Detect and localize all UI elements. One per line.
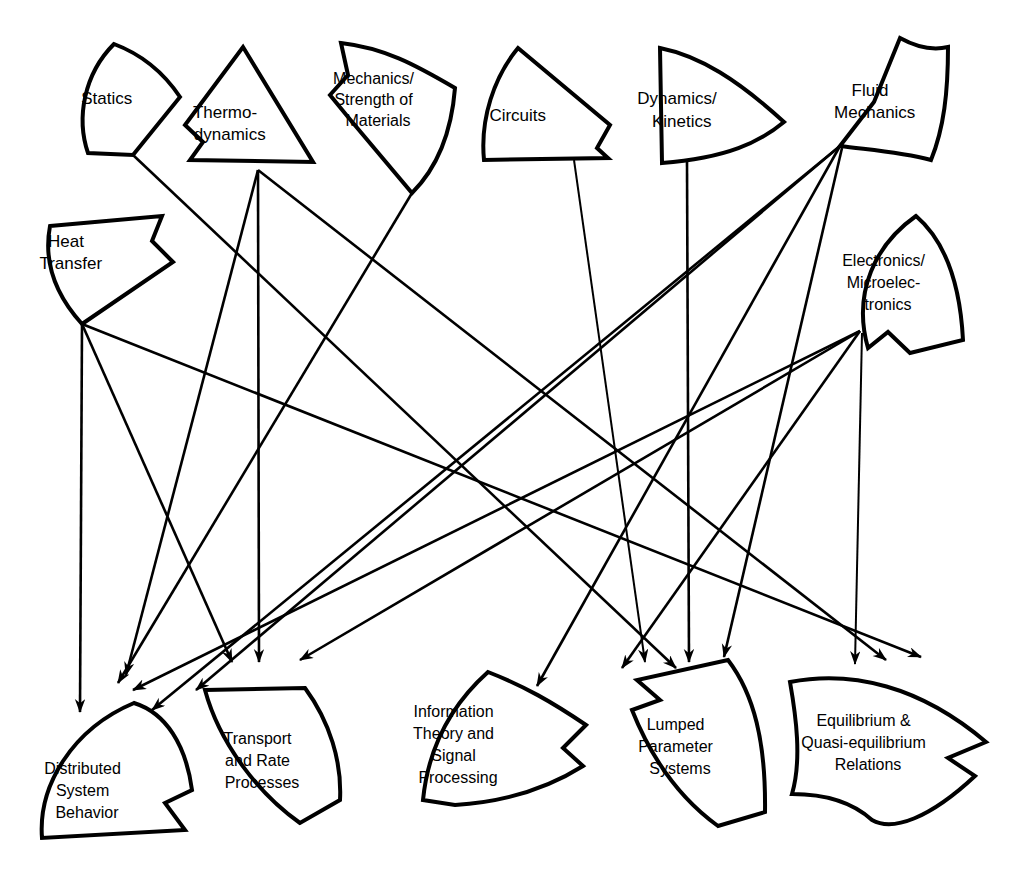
node-heat[interactable]: Heat Transfer	[0, 0, 173, 324]
edge-dynamics-lumped	[687, 162, 689, 662]
edge-fluid-distributed	[152, 146, 840, 710]
node-circuits-shape	[483, 48, 610, 160]
node-statics[interactable]: Statics	[0, 0, 180, 155]
edge-thermodynamics-equilibrium	[258, 170, 886, 660]
node-statics-label: Statics	[0, 0, 175, 108]
edge-electronics-equilibrium	[855, 333, 862, 664]
edge-thermodynamics-transport	[258, 170, 259, 662]
edge-fluid-transport	[196, 146, 840, 690]
edge-heat-distributed	[80, 324, 82, 712]
edge-layer	[80, 146, 921, 712]
edge-circuits-lumped	[574, 160, 645, 662]
concept-map-diagram: Statics Thermo- dynamics Mechanics/ Stre…	[0, 0, 1032, 888]
edge-statics-lumped	[133, 155, 676, 668]
node-electronics[interactable]: Electronics/ Microelec- tronics	[0, 0, 974, 353]
node-layer: Statics Thermo- dynamics Mechanics/ Stre…	[0, 0, 986, 838]
edge-electronics-distributed	[133, 331, 860, 690]
